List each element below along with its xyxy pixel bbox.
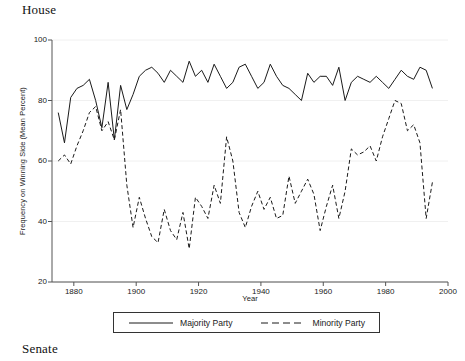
- gridlines: [52, 40, 448, 282]
- series-line-majority-party: [58, 61, 432, 143]
- x-tick-2000: 2000: [428, 287, 465, 296]
- chart-canvas: [52, 40, 448, 282]
- y-tick-40: 40: [21, 217, 47, 226]
- figure-root: House Frequency on Winning Side (Mean Pe…: [0, 0, 465, 361]
- x-tick-1880: 1880: [54, 287, 94, 296]
- panel-title-house: House: [22, 2, 56, 18]
- y-tick-80: 80: [21, 96, 47, 105]
- legend-label-majority: Majority Party: [180, 318, 233, 328]
- legend-item-majority: Majority Party: [128, 318, 233, 328]
- y-tick-60: 60: [21, 156, 47, 165]
- legend-item-minority: Minority Party: [260, 318, 365, 328]
- y-tick-20: 20: [21, 277, 47, 286]
- data-series: [58, 61, 432, 249]
- x-tick-1960: 1960: [303, 287, 343, 296]
- axis-tickmarks: [48, 40, 448, 286]
- legend-label-minority: Minority Party: [312, 318, 365, 328]
- legend-swatch-dashed: [260, 318, 306, 328]
- x-tick-1940: 1940: [241, 287, 281, 296]
- panel-title-senate: Senate: [22, 341, 58, 357]
- legend-swatch-solid: [128, 318, 174, 328]
- x-tick-1920: 1920: [179, 287, 219, 296]
- plot-area: Frequency on Winning Side (Mean Percent)…: [52, 40, 448, 282]
- x-tick-1980: 1980: [366, 287, 406, 296]
- chart-legend: Majority Party Minority Party: [113, 312, 380, 333]
- y-tick-100: 100: [21, 35, 47, 44]
- x-tick-1900: 1900: [116, 287, 156, 296]
- series-line-minority-party: [58, 101, 432, 249]
